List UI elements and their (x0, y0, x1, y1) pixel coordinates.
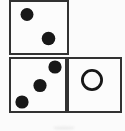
filled-pip (15, 95, 28, 108)
top-left-tile (10, 1, 68, 54)
smudge-mark (53, 126, 75, 129)
bottom-right-tile (68, 58, 121, 112)
filled-pip (33, 79, 46, 92)
dice-figure (0, 0, 125, 131)
filled-pip (21, 8, 34, 21)
dice-figure-canvas (0, 0, 125, 131)
filled-pip (42, 32, 56, 46)
filled-pip (48, 60, 61, 73)
